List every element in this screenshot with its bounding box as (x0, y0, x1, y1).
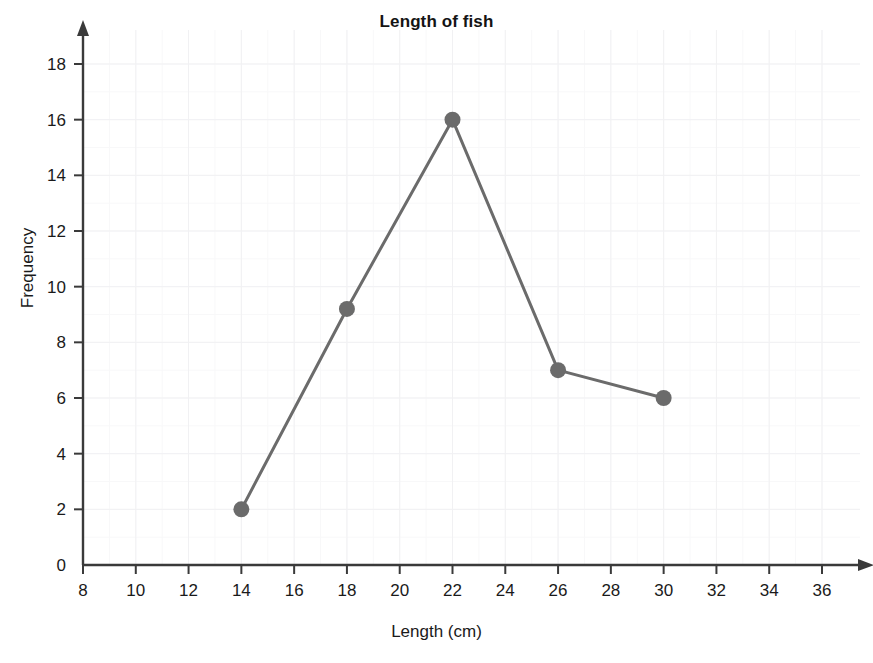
chart-container: Length of fish 8101214161820222426283032… (0, 0, 873, 663)
svg-text:12: 12 (47, 222, 66, 241)
svg-text:30: 30 (654, 581, 673, 600)
svg-text:14: 14 (47, 166, 66, 185)
svg-text:8: 8 (78, 581, 87, 600)
svg-text:8: 8 (57, 333, 66, 352)
svg-text:12: 12 (179, 581, 198, 600)
svg-text:18: 18 (337, 581, 356, 600)
y-axis-ticks: 024681012141618 (47, 55, 83, 575)
svg-text:24: 24 (496, 581, 515, 600)
chart-plot-area: 81012141618202224262830323436 0246810121… (0, 0, 873, 663)
svg-text:26: 26 (549, 581, 568, 600)
svg-text:32: 32 (707, 581, 726, 600)
y-axis-label: Frequency (18, 203, 38, 333)
svg-text:10: 10 (126, 581, 145, 600)
svg-text:34: 34 (760, 581, 779, 600)
svg-text:16: 16 (47, 111, 66, 130)
svg-text:2: 2 (57, 500, 66, 519)
svg-text:36: 36 (813, 581, 832, 600)
axes (77, 20, 873, 571)
x-axis-ticks: 81012141618202224262830323436 (78, 565, 831, 600)
svg-text:14: 14 (232, 581, 251, 600)
x-axis-label: Length (cm) (0, 622, 873, 642)
svg-text:22: 22 (443, 581, 462, 600)
svg-text:20: 20 (390, 581, 409, 600)
grid-major (83, 30, 860, 565)
svg-text:4: 4 (57, 445, 66, 464)
svg-text:10: 10 (47, 278, 66, 297)
svg-text:6: 6 (57, 389, 66, 408)
svg-text:0: 0 (57, 556, 66, 575)
grid-minor (83, 30, 860, 565)
svg-text:16: 16 (285, 581, 304, 600)
svg-text:18: 18 (47, 55, 66, 74)
svg-text:28: 28 (601, 581, 620, 600)
